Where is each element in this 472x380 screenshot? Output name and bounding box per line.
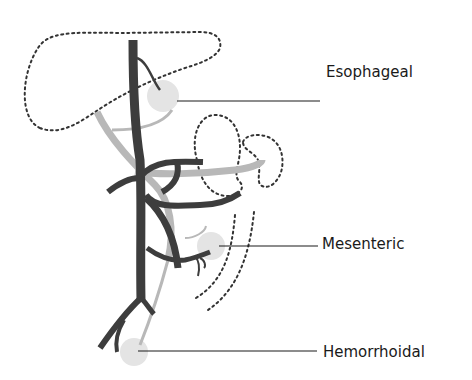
label-hemorrhoidal: Hemorrhoidal xyxy=(323,345,425,360)
hemorrhoidal-site xyxy=(120,338,148,366)
systemic-vein-esophageal xyxy=(112,110,172,130)
mesenteric-twigs xyxy=(195,256,205,276)
branch-left-short xyxy=(108,178,139,192)
liver-outline xyxy=(25,32,221,130)
portal-vein-trunk xyxy=(133,40,141,300)
inferior-branch-right xyxy=(141,298,154,314)
esophageal-site xyxy=(147,80,179,112)
colon-outline-outer xyxy=(205,212,254,312)
portal-circulation-diagram xyxy=(0,0,472,380)
stomach-outline xyxy=(195,115,242,196)
label-esophageal: Esophageal xyxy=(326,65,413,80)
label-mesenteric: Mesenteric xyxy=(322,237,404,252)
